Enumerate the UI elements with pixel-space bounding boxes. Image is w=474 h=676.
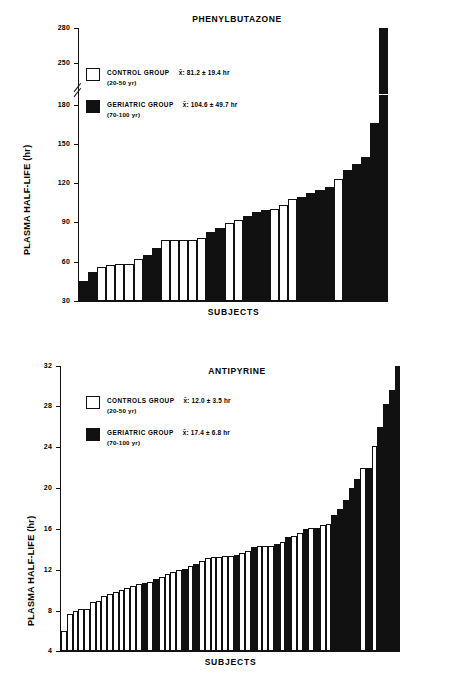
bar [143, 255, 152, 301]
bar [134, 259, 143, 301]
bar [234, 220, 243, 301]
legend-stat-geriatric: x̄: 104.6 ± 49.7 hr [183, 101, 238, 108]
chart-title: PHENYLBUTAZONE [0, 14, 474, 24]
chart-antipyrine: ANTIPYRINE PLASMA HALF-LIFE (hr) 32 28 2… [0, 336, 474, 676]
bar [79, 281, 88, 301]
bar [325, 187, 334, 301]
y-tick-label-250: 250 [40, 59, 70, 66]
legend-swatch-control-icon [86, 396, 100, 409]
y-tick-90 [74, 222, 78, 223]
bar [395, 366, 401, 651]
bar [352, 164, 361, 301]
legend-swatch-control-icon [86, 68, 100, 81]
bar [161, 240, 170, 301]
bar-axis-break [379, 94, 388, 96]
y-tick-label-20: 20 [26, 484, 52, 491]
bar [225, 223, 234, 301]
legend-swatch-geriatric-icon [86, 100, 100, 113]
bar [88, 272, 97, 301]
bar [97, 267, 106, 301]
bar [370, 123, 379, 301]
legend-sub-geriatric: (70-100 yr) [107, 111, 140, 118]
legend-label-geriatric: GERIATRIC GROUP x̄: 104.6 ± 49.7 hr [107, 101, 237, 108]
legend-stat-control: x̄: 12.0 ± 3.5 hr [184, 397, 231, 404]
legend-label-geriatric-text: GERIATRIC GROUP [107, 101, 174, 108]
bar [115, 264, 124, 301]
x-axis-label: SUBJECTS [79, 307, 388, 317]
bar [170, 240, 179, 301]
x-axis-line [60, 651, 400, 652]
y-tick-label-4: 4 [26, 647, 52, 654]
y-tick-280 [74, 28, 78, 29]
y-tick-16 [56, 529, 60, 530]
legend-stat-geriatric: x̄: 17.4 ± 6.8 hr [183, 429, 230, 436]
y-tick-28 [56, 406, 60, 407]
y-tick-20 [56, 488, 60, 489]
y-tick-180 [74, 105, 78, 106]
bar [379, 28, 388, 301]
legend-sub-control: (20-50 yr) [107, 79, 137, 86]
y-tick-label-60: 60 [40, 258, 70, 265]
bar [315, 190, 324, 301]
x-axis-line [78, 301, 388, 302]
bar [334, 179, 343, 301]
legend-label-control-text: CONTROL GROUP [107, 69, 169, 76]
legend-stat-control: x̄: 81.2 ± 19.4 hr [179, 69, 230, 76]
legend-label-control-text: CONTROLS GROUP [107, 397, 174, 404]
y-tick-32 [56, 366, 60, 367]
bar [252, 212, 261, 301]
y-tick-24 [56, 447, 60, 448]
legend-label-geriatric: GERIATRIC GROUP x̄: 17.4 ± 6.8 hr [107, 429, 230, 436]
y-tick-label-120: 120 [40, 179, 70, 186]
bar [297, 197, 306, 301]
bar [215, 228, 224, 301]
bar [106, 265, 115, 301]
y-tick-8 [56, 611, 60, 612]
y-tick-label-32: 32 [26, 362, 52, 369]
bar [261, 210, 270, 301]
bar [206, 232, 215, 301]
bar [243, 216, 252, 301]
y-tick-label-150: 150 [40, 140, 70, 147]
y-tick-60 [74, 262, 78, 263]
bar [188, 240, 197, 301]
y-tick-30 [74, 301, 78, 302]
bar [343, 170, 352, 301]
y-tick-250 [74, 63, 78, 64]
y-tick-label-8: 8 [26, 607, 52, 614]
legend-label-geriatric-text: GERIATRIC GROUP [107, 429, 174, 436]
chart-phenylbutazone: PHENYLBUTAZONE PLASMA HALF-LIFE (hr) 280… [0, 0, 474, 340]
legend-swatch-geriatric-icon [86, 428, 100, 441]
y-tick-label-24: 24 [26, 443, 52, 450]
y-axis-label: PLASMA HALF-LIFE (hr) [22, 145, 32, 255]
y-tick-12 [56, 570, 60, 571]
legend-label-control: CONTROLS GROUP x̄: 12.0 ± 3.5 hr [107, 397, 231, 404]
y-tick-4 [56, 651, 60, 652]
bar [197, 238, 206, 301]
y-tick-label-90: 90 [40, 218, 70, 225]
y-tick-120 [74, 183, 78, 184]
bar [270, 209, 279, 301]
bar [306, 193, 315, 301]
y-tick-label-28: 28 [26, 402, 52, 409]
bar [279, 205, 288, 301]
bar [361, 157, 370, 301]
bar [152, 248, 161, 301]
bar [124, 264, 133, 301]
y-tick-label-16: 16 [26, 525, 52, 532]
y-tick-label-30: 30 [40, 297, 70, 304]
y-tick-label-280: 280 [40, 24, 70, 31]
y-tick-label-12: 12 [26, 566, 52, 573]
x-axis-label: SUBJECTS [61, 657, 400, 667]
bar [288, 199, 297, 301]
y-tick-150 [74, 144, 78, 145]
bar [179, 240, 188, 301]
legend-sub-geriatric: (70-100 yr) [107, 439, 140, 446]
legend-sub-control: (20-50 yr) [107, 407, 137, 414]
legend-label-control: CONTROL GROUP x̄: 81.2 ± 19.4 hr [107, 69, 230, 76]
y-tick-label-180: 180 [40, 101, 70, 108]
